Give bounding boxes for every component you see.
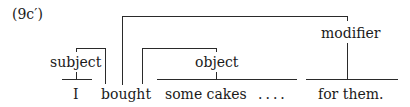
modifier-underline [306,79,398,80]
object-bracket-left [142,48,143,84]
subject-bracket-right [105,48,106,84]
word-bought: bought [101,86,151,102]
modifier-bracket-left [122,16,123,85]
object-bracket-right [216,48,217,52]
subject-label: subject [50,54,101,70]
subject-bracket-top [76,48,106,49]
word-some-cakes: some cakes [165,86,247,102]
subject-underline [62,79,92,80]
word-i: I [73,86,79,102]
object-underline [157,79,297,80]
modifier-bracket-right [347,16,348,21]
modifier-label: modifier [321,25,380,41]
modifier-bracket-top [122,16,348,17]
example-label: (9c′) [12,6,43,22]
word-for-them: for them. [318,86,383,102]
object-label: object [195,54,238,70]
subject-bracket-left [76,48,77,52]
object-bracket-top [142,48,217,49]
modifier-stem [347,43,348,80]
ellipsis: .... [258,86,288,102]
